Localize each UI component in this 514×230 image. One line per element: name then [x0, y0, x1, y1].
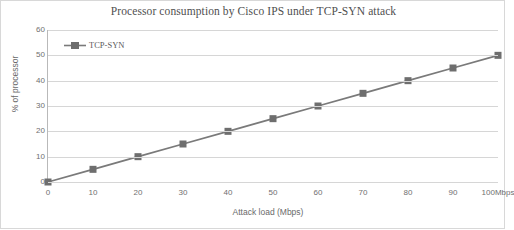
y-axis-ticks: 0102030405060 [1, 1, 45, 230]
x-tick-label: 20 [134, 189, 143, 197]
y-tick-label: 40 [11, 77, 45, 85]
x-tick-label: 100Mbps [482, 189, 514, 197]
x-tick-label: 10 [89, 189, 98, 197]
plot-area [48, 30, 498, 182]
gridline [48, 55, 498, 56]
gridline [48, 81, 498, 82]
data-point-marker [270, 115, 277, 122]
y-tick-label: 60 [11, 26, 45, 34]
y-tick-label: 30 [11, 102, 45, 110]
x-tick-label: 70 [359, 189, 368, 197]
gridline [48, 182, 498, 183]
x-tick-label: 30 [179, 189, 188, 197]
data-point-marker [90, 166, 97, 173]
data-point-marker [360, 90, 367, 97]
x-tick-label: 50 [269, 189, 278, 197]
data-point-marker [450, 65, 457, 72]
y-tick-label: 0 [11, 178, 45, 186]
gridline [48, 106, 498, 107]
x-tick-label: 80 [404, 189, 413, 197]
gridline [48, 131, 498, 132]
y-tick-label: 20 [11, 127, 45, 135]
data-point-marker [180, 141, 187, 148]
gridline [48, 157, 498, 158]
x-tick-label: 40 [224, 189, 233, 197]
legend-marker-icon [64, 41, 86, 50]
x-axis-label: Attack load (Mbps) [48, 207, 488, 217]
legend-label: TCP-SYN [89, 40, 124, 50]
y-tick-label: 50 [11, 51, 45, 59]
x-tick-label: 90 [449, 189, 458, 197]
chart-title: Processor consumption by Cisco IPS under… [1, 5, 506, 17]
y-tick-label: 10 [11, 153, 45, 161]
x-tick-label: 0 [46, 189, 50, 197]
x-tick-label: 60 [314, 189, 323, 197]
legend: TCP-SYN [64, 40, 124, 50]
gridline [48, 30, 498, 31]
